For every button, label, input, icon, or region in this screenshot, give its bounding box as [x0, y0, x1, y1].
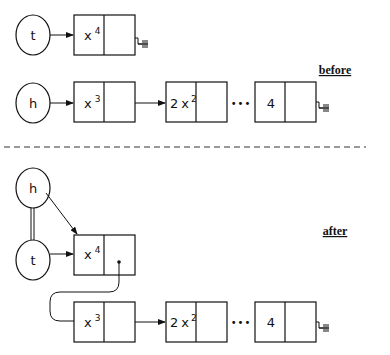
svg-text:x3: x3 [84, 313, 100, 330]
list-node-x3: x3 [74, 302, 135, 342]
tail-label: t [30, 28, 35, 43]
svg-text:h: h [29, 181, 37, 196]
svg-text:t: t [30, 253, 35, 268]
arrow [46, 193, 77, 234]
list-node-x4: x4 [74, 15, 135, 55]
ellipsis: ••• [231, 317, 252, 328]
list-node-x3: x3 [74, 82, 135, 122]
tail-pointer-node: t [16, 240, 50, 280]
svg-text:x4: x4 [84, 26, 101, 43]
list-node-2x2: 2x2 [166, 82, 227, 122]
svg-text:x4: x4 [84, 245, 101, 262]
list-node-4: 4 [255, 82, 316, 122]
ellipsis: ••• [231, 98, 252, 109]
head-pointer-node: h [16, 168, 50, 208]
head-label: h [29, 96, 37, 111]
list-node-x4: x4 [74, 235, 135, 275]
next-link-curve [50, 262, 119, 321]
svg-text:x3: x3 [84, 94, 100, 111]
term-exp: 4 [95, 26, 101, 36]
head-pointer-node: h [16, 83, 50, 123]
svg-text:2x2: 2x2 [170, 313, 197, 330]
linked-list-diagram: t x4 h x3 2x2 [0, 0, 390, 355]
svg-text:4: 4 [267, 315, 275, 330]
term-var: x [84, 28, 92, 43]
after-section: h t x4 x3 2x2 ••• [16, 168, 348, 342]
tail-pointer-node: t [16, 15, 50, 55]
svg-text:2x2: 2x2 [170, 94, 197, 111]
svg-text:4: 4 [267, 96, 275, 111]
before-section: t x4 h x3 2x2 [16, 15, 352, 123]
list-node-2x2: 2x2 [166, 302, 227, 342]
after-caption: after [323, 224, 348, 238]
null-terminator-icon [316, 102, 329, 112]
null-terminator-icon [135, 38, 148, 48]
list-node-4: 4 [255, 302, 316, 342]
before-caption: before [319, 63, 352, 77]
null-terminator-icon [316, 322, 329, 332]
